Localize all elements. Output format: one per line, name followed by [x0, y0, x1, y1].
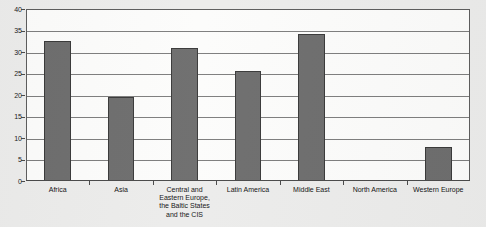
- x-axis-tick: [153, 181, 154, 185]
- x-axis-ticks: [26, 181, 470, 185]
- bar-slot: [407, 9, 470, 181]
- x-axis-category-label: Central and Eastern Europe, the Baltic S…: [153, 186, 216, 219]
- y-axis-tick-label: 5: [0, 156, 22, 163]
- bar[interactable]: [425, 147, 452, 181]
- y-axis-tick-label: 40: [0, 6, 22, 13]
- y-axis-tick: [21, 160, 25, 161]
- x-axis-category-label: Middle East: [280, 186, 343, 219]
- bar-slot: [89, 9, 152, 181]
- x-axis-category-label: Africa: [26, 186, 89, 219]
- y-axis-tick-label: 15: [0, 113, 22, 120]
- x-axis-tick: [216, 181, 217, 185]
- x-axis-category-label: Asia: [89, 186, 152, 219]
- y-axis-tick: [21, 31, 25, 32]
- y-axis-tick: [21, 95, 25, 96]
- y-axis-tick: [21, 117, 25, 118]
- bar[interactable]: [171, 48, 198, 181]
- y-axis-tick: [21, 181, 25, 182]
- y-axis-tick: [21, 9, 25, 10]
- x-axis-tick: [89, 181, 90, 185]
- bar[interactable]: [44, 41, 71, 181]
- x-axis-category-label: Latin America: [216, 186, 279, 219]
- bar[interactable]: [235, 71, 262, 181]
- bar[interactable]: [108, 97, 135, 181]
- bar-slot: [26, 9, 89, 181]
- x-axis-category-label: Western Europe: [407, 186, 470, 219]
- y-axis-tick-label: 25: [0, 70, 22, 77]
- x-axis-tick: [280, 181, 281, 185]
- bar-chart: 0510152025303540 AfricaAsiaCentral and E…: [0, 0, 486, 227]
- bar[interactable]: [298, 34, 325, 181]
- y-axis-tick: [21, 138, 25, 139]
- y-axis-tick-label: 0: [0, 178, 22, 185]
- x-axis-labels: AfricaAsiaCentral and Eastern Europe, th…: [26, 186, 470, 219]
- x-axis-tick: [343, 181, 344, 185]
- y-axis-tick: [21, 74, 25, 75]
- x-axis-category-label: North America: [343, 186, 406, 219]
- y-axis-tick: [21, 52, 25, 53]
- x-axis-tick: [407, 181, 408, 185]
- bar-slot: [280, 9, 343, 181]
- y-axis-tick-label: 30: [0, 49, 22, 56]
- y-axis-tick-label: 20: [0, 92, 22, 99]
- bar-slot: [216, 9, 279, 181]
- bar-slot: [343, 9, 406, 181]
- y-axis-tick-label: 10: [0, 135, 22, 142]
- y-axis-tick-label: 35: [0, 27, 22, 34]
- bar-slot: [153, 9, 216, 181]
- bar-series: [26, 9, 470, 181]
